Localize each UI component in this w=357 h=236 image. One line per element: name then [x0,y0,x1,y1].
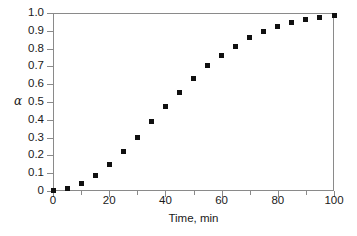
y-tick-label-0.7: 0.7 [4,60,44,72]
y-tick-label-0.5: 0.5 [4,96,44,108]
x-tick-label-100: 100 [312,195,356,207]
data-point [79,181,84,186]
data-point [163,104,168,109]
x-tick-label-80: 80 [256,195,300,207]
y-tick-0.2 [47,155,53,156]
y-tick-0.9 [47,31,53,32]
x-tick-label-60: 60 [200,195,244,207]
data-point [107,162,112,167]
data-point [219,53,224,58]
data-point [261,29,266,34]
x-minor-tick-50 [194,191,195,195]
data-point [289,20,294,25]
y-tick-0.4 [47,120,53,121]
x-tick-label-0: 0 [31,195,75,207]
y-tick-label-0.1: 0.1 [4,167,44,179]
data-point [51,188,56,193]
data-point [303,17,308,22]
y-tick-label-0.8: 0.8 [4,43,44,55]
y-tick-0.8 [47,49,53,50]
y-tick-0.3 [47,138,53,139]
data-point [121,149,126,154]
data-point [275,24,280,29]
chart-figure: 00.10.20.30.40.50.60.70.80.91.0 02040608… [0,0,357,236]
plot-frame [53,13,334,191]
x-minor-tick-10 [81,191,82,195]
x-axis-title: Time, min [53,212,334,224]
y-tick-label-0.9: 0.9 [4,25,44,37]
y-tick-0.7 [47,66,53,67]
data-point [177,90,182,95]
y-tick-1.0 [47,13,53,14]
data-point [332,13,337,18]
data-point [317,15,322,20]
x-tick-label-20: 20 [87,195,131,207]
y-tick-0.1 [47,173,53,174]
x-minor-tick-30 [137,191,138,195]
data-point [191,76,196,81]
data-point [135,135,140,140]
y-tick-label-0.3: 0.3 [4,132,44,144]
y-tick-label-1.0: 1.0 [4,7,44,19]
data-point [247,35,252,40]
data-point [149,119,154,124]
data-point [65,186,70,191]
y-tick-label-0.4: 0.4 [4,114,44,126]
y-tick-label-0.2: 0.2 [4,149,44,161]
x-minor-tick-70 [250,191,251,195]
x-minor-tick-90 [306,191,307,195]
y-tick-0.6 [47,84,53,85]
y-tick-label-0.6: 0.6 [4,78,44,90]
y-axis-title: α [14,94,22,108]
data-point [205,63,210,68]
data-point [93,173,98,178]
x-tick-label-40: 40 [143,195,187,207]
y-tick-0.5 [47,102,53,103]
data-point [233,44,238,49]
